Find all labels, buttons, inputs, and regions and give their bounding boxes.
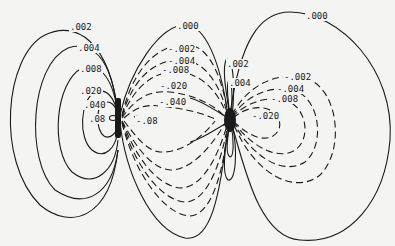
label-center-n008: -.008 — [161, 65, 190, 75]
contour-neg-right-008 — [232, 99, 305, 154]
label-center-n020: -.020 — [159, 81, 188, 91]
contour-plot — [0, 0, 395, 246]
right-singular-point — [224, 108, 236, 132]
label-left-004: .004 — [77, 43, 101, 53]
label-right-n020: -.020 — [251, 111, 280, 121]
label-left-020: .020 — [79, 86, 103, 96]
label-center-zero: .000 — [176, 21, 200, 31]
label-center-n08: -.08 — [135, 116, 159, 126]
label-left-040: .040 — [83, 100, 107, 110]
label-right-p002: .002 — [226, 59, 250, 69]
label-center-n040: -.040 — [158, 97, 187, 107]
contour-zero-right — [230, 12, 390, 240]
label-right-n008: -.008 — [270, 94, 299, 104]
label-right-n002: -.002 — [283, 72, 312, 82]
label-right-p004: .004 — [228, 78, 252, 88]
label-left-002: .002 — [69, 22, 93, 32]
label-left-08: .08 — [88, 114, 106, 124]
left-singular-point — [115, 98, 121, 138]
label-left-008: .008 — [79, 64, 103, 74]
label-right-zero: .000 — [305, 11, 329, 21]
label-right-n004: -.004 — [276, 84, 305, 94]
label-center-n002: -.002 — [167, 44, 196, 54]
